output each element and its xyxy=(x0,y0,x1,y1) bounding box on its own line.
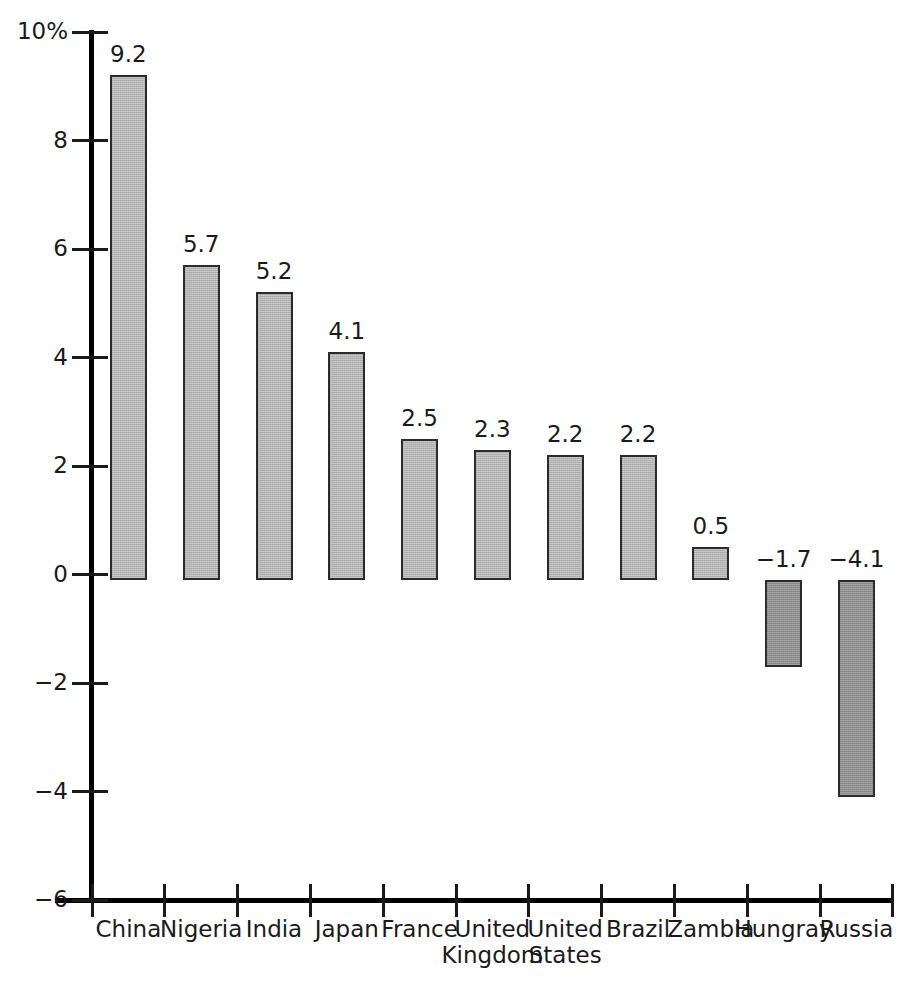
y-axis-tick xyxy=(72,682,108,685)
bar[interactable] xyxy=(620,455,657,580)
y-axis-tick-label: 4 xyxy=(0,346,68,369)
x-axis-tick xyxy=(673,884,676,917)
bar[interactable] xyxy=(256,292,293,580)
y-axis-tick-label: 8 xyxy=(0,129,68,152)
bar-value-label: −4.1 xyxy=(801,548,911,571)
y-axis-tick xyxy=(72,31,108,34)
x-axis-tick xyxy=(891,884,894,917)
x-axis-category-label: Russia xyxy=(796,916,916,942)
plot-area: −6−4−20246810% 9.25.75.24.12.52.32.22.20… xyxy=(0,0,921,994)
bar[interactable] xyxy=(765,580,802,667)
x-axis-tick xyxy=(91,884,94,917)
x-axis-tick xyxy=(455,884,458,917)
bar[interactable] xyxy=(692,547,729,580)
bar[interactable] xyxy=(110,75,147,580)
bar[interactable] xyxy=(401,439,438,580)
y-axis-tick xyxy=(72,573,108,576)
bar-value-label: 9.2 xyxy=(73,43,183,66)
bar[interactable] xyxy=(328,352,365,580)
x-axis-tick xyxy=(527,884,530,917)
y-axis-tick xyxy=(72,465,108,468)
bar-value-label: 5.2 xyxy=(219,260,329,283)
y-axis-tick-label: −4 xyxy=(0,780,68,803)
y-axis-tick xyxy=(72,356,108,359)
bar-value-label: 2.2 xyxy=(583,423,693,446)
x-axis-tick xyxy=(309,884,312,917)
x-axis-category-label-line2: States xyxy=(505,942,625,968)
bar[interactable] xyxy=(838,580,875,797)
bar-value-label: 4.1 xyxy=(292,320,402,343)
x-axis-tick xyxy=(382,884,385,917)
x-axis-tick xyxy=(600,884,603,917)
y-axis-tick xyxy=(72,139,108,142)
y-axis-tick-label: 6 xyxy=(0,237,68,260)
bar-chart: −6−4−20246810% 9.25.75.24.12.52.32.22.20… xyxy=(0,0,921,994)
y-axis-tick-label: 10% xyxy=(0,20,68,43)
y-axis-tick xyxy=(72,248,108,251)
y-axis-tick-label: 0 xyxy=(0,563,68,586)
y-axis-tick-label: 2 xyxy=(0,454,68,477)
bar[interactable] xyxy=(474,450,511,580)
bar-value-label: 0.5 xyxy=(656,515,766,538)
bar-value-label: 5.7 xyxy=(146,233,256,256)
x-axis-tick xyxy=(819,884,822,917)
y-axis-tick-label: −6 xyxy=(0,888,68,911)
y-axis-tick-label: −2 xyxy=(0,671,68,694)
x-axis-category-label-line1: Russia xyxy=(819,916,893,942)
x-axis-tick xyxy=(746,884,749,917)
y-axis-tick xyxy=(72,790,108,793)
bar[interactable] xyxy=(547,455,584,580)
x-axis-tick xyxy=(163,884,166,917)
x-axis-line xyxy=(55,898,893,903)
x-axis-tick xyxy=(236,884,239,917)
bar[interactable] xyxy=(183,265,220,580)
